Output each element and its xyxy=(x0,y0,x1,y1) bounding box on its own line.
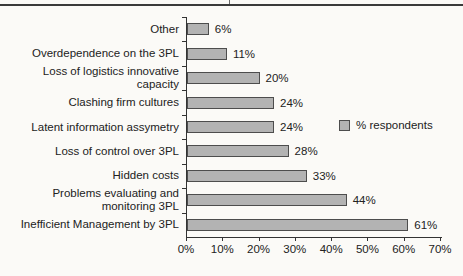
x-axis-tick xyxy=(331,237,332,241)
x-tick-label: 20% xyxy=(242,243,276,255)
bar xyxy=(187,23,209,35)
y-axis-tick xyxy=(182,213,186,214)
x-tick-label: 50% xyxy=(350,243,384,255)
category-label: Problems evaluating and monitoring 3PL xyxy=(0,188,179,212)
category-label: Inefficient Management by 3PL xyxy=(0,213,179,237)
y-axis-tick xyxy=(182,41,186,42)
legend-swatch xyxy=(339,120,350,131)
y-axis-tick xyxy=(182,115,186,116)
y-axis-tick xyxy=(182,90,186,91)
bar xyxy=(187,48,227,60)
y-axis-tick xyxy=(182,188,186,189)
value-label: 61% xyxy=(414,218,437,232)
bar xyxy=(187,145,289,157)
x-tick-label: 0% xyxy=(169,243,203,255)
bar xyxy=(187,72,260,84)
category-label: Clashing firm cultures xyxy=(0,90,179,114)
bar xyxy=(187,121,274,133)
bar xyxy=(187,97,274,109)
x-tick-label: 30% xyxy=(278,243,312,255)
chart-page: Other6%Overdependence on the 3PL11%Loss … xyxy=(0,0,463,276)
value-label: 6% xyxy=(215,22,232,36)
value-label: 33% xyxy=(313,169,336,183)
x-tick-label: 60% xyxy=(387,243,421,255)
y-axis-tick xyxy=(182,17,186,18)
x-axis-tick xyxy=(367,237,368,241)
x-tick-label: 70% xyxy=(423,243,457,255)
legend-label: % respondents xyxy=(356,119,433,131)
x-axis-tick xyxy=(222,237,223,241)
value-label: 28% xyxy=(295,144,318,158)
legend: % respondents xyxy=(339,119,433,131)
x-tick-label: 40% xyxy=(314,243,348,255)
bar xyxy=(187,170,307,182)
y-axis-tick xyxy=(182,66,186,67)
bar xyxy=(187,194,347,206)
x-axis-tick xyxy=(295,237,296,241)
x-axis-tick xyxy=(259,237,260,241)
category-label: Overdependence on the 3PL xyxy=(0,41,179,65)
value-label: 11% xyxy=(233,47,255,61)
bar xyxy=(187,219,408,231)
category-label: Other xyxy=(0,17,179,41)
x-axis-tick xyxy=(440,237,441,241)
category-label: Latent information assymetry xyxy=(0,115,179,139)
category-label: Loss of control over 3PL xyxy=(0,139,179,163)
category-label: Hidden costs xyxy=(0,164,179,188)
value-label: 20% xyxy=(266,71,289,85)
value-label: 44% xyxy=(353,193,376,207)
bar-chart: Other6%Overdependence on the 3PL11%Loss … xyxy=(0,0,463,276)
value-label: 24% xyxy=(280,96,303,110)
x-axis-tick xyxy=(186,237,187,241)
y-axis-tick xyxy=(182,139,186,140)
value-label: 24% xyxy=(280,120,303,134)
y-axis-tick xyxy=(182,164,186,165)
x-axis-tick xyxy=(404,237,405,241)
x-tick-label: 10% xyxy=(205,243,239,255)
category-label: Loss of logistics innovative capacity xyxy=(0,66,179,90)
